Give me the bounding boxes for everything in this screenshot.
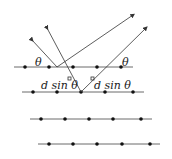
theta-right-label: θ [122, 56, 129, 69]
theta-left-label: θ [35, 56, 42, 69]
bragg-diffraction-diagram: θ θ d sin θ d sin θ [0, 0, 172, 159]
diagram-graphic [0, 0, 172, 159]
atoms [23, 65, 152, 146]
path-difference-left-label: d sin θ [41, 79, 78, 92]
path-difference-right-label: d sin θ [94, 79, 131, 92]
lattice-planes [14, 67, 160, 144]
